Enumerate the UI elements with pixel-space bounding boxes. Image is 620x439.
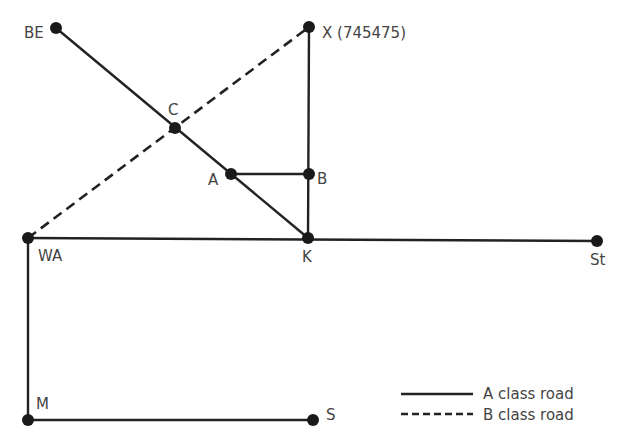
- a-class-roads: [28, 27, 597, 420]
- label-be: BE: [24, 24, 44, 42]
- node-b: [303, 168, 315, 180]
- legend-a-class-label: A class road: [483, 385, 574, 403]
- b-class-roads: [28, 27, 309, 238]
- label-s: S: [326, 406, 336, 424]
- node-k: [302, 232, 314, 244]
- road-wa-x: [28, 27, 309, 238]
- node-labels: BE X (745475) C A B WA K St M S: [24, 24, 606, 424]
- node-s: [307, 414, 319, 426]
- node-c: [169, 122, 181, 134]
- road-x-k: [308, 27, 309, 238]
- legend: A class road B class road: [401, 385, 574, 424]
- label-m: M: [36, 395, 49, 413]
- node-m: [22, 414, 34, 426]
- node-be: [50, 22, 62, 34]
- label-st: St: [590, 251, 606, 269]
- label-c: C: [168, 101, 178, 119]
- label-a: A: [208, 171, 219, 189]
- label-x: X (745475): [322, 24, 406, 42]
- label-k: K: [302, 248, 313, 266]
- label-wa: WA: [38, 247, 63, 265]
- label-b: B: [317, 170, 327, 188]
- node-st: [591, 235, 603, 247]
- node-a: [225, 168, 237, 180]
- nodes: [22, 21, 603, 426]
- node-wa: [22, 232, 34, 244]
- road-network-diagram: BE X (745475) C A B WA K St M S A class …: [0, 0, 620, 439]
- road-be-k: [56, 28, 308, 238]
- legend-b-class-label: B class road: [483, 406, 574, 424]
- node-x: [303, 21, 315, 33]
